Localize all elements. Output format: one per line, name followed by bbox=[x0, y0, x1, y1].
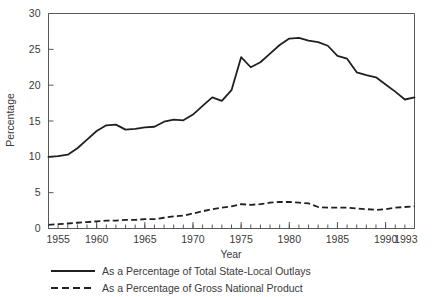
y-tick-label-20: 20 bbox=[29, 79, 41, 91]
x-axis-title: Year bbox=[220, 248, 242, 260]
x-tick-label-1960: 1960 bbox=[85, 233, 109, 245]
x-tick-label-1955: 1955 bbox=[47, 233, 71, 245]
y-tick-label-15: 15 bbox=[29, 115, 41, 127]
x-axis-tick-labels: 195519601965197019751980198519901993 bbox=[47, 233, 418, 245]
data-series-group bbox=[49, 38, 415, 225]
x-tick-label-1985: 1985 bbox=[326, 233, 350, 245]
x-tick-label-1965: 1965 bbox=[133, 233, 157, 245]
x-tick-label-1980: 1980 bbox=[278, 233, 302, 245]
y-tick-label-25: 25 bbox=[29, 43, 41, 55]
x-tick-label-1975: 1975 bbox=[229, 233, 253, 245]
y-tick-label-0: 0 bbox=[35, 222, 41, 234]
line-chart: 051015202530 195519601965197019751980198… bbox=[0, 0, 440, 297]
chart-legend: As a Percentage of Total State-Local Out… bbox=[51, 265, 311, 294]
x-tick-label-1970: 1970 bbox=[181, 233, 205, 245]
legend-label-0: As a Percentage of Total State-Local Out… bbox=[102, 265, 311, 277]
y-axis-title: Percentage bbox=[4, 93, 16, 147]
x-tick-label-1993: 1993 bbox=[394, 233, 418, 245]
axis-frame bbox=[49, 14, 415, 229]
x-axis-minor-ticks bbox=[49, 225, 415, 229]
plot-frame bbox=[49, 14, 415, 229]
y-axis-tick-labels: 051015202530 bbox=[29, 7, 41, 234]
chart-figure: 051015202530 195519601965197019751980198… bbox=[0, 0, 440, 297]
y-axis-ticks bbox=[49, 14, 54, 229]
series-line-1 bbox=[49, 202, 415, 225]
legend-label-1: As a Percentage of Gross National Produc… bbox=[102, 282, 303, 294]
y-tick-label-5: 5 bbox=[35, 186, 41, 198]
y-tick-label-30: 30 bbox=[29, 7, 41, 19]
series-line-0 bbox=[49, 38, 415, 157]
y-tick-label-10: 10 bbox=[29, 150, 41, 162]
